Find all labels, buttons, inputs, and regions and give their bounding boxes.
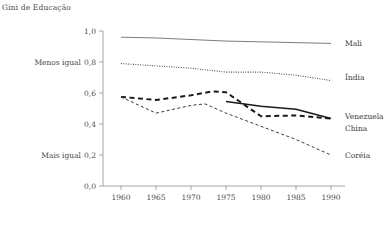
y-tick-label: 0,2: [84, 151, 96, 160]
y-tick-label: 1,0: [84, 27, 96, 36]
y-axis-annotation: Mais igual: [41, 151, 81, 160]
plot-area: 0,00,20,40,60,81,0Menos igualMais igual1…: [0, 0, 387, 225]
y-tick-label: 0,8: [84, 58, 96, 67]
y-axis-annotation: Menos igual: [34, 58, 81, 67]
education-gini-chart: Gini de Educação 0,00,20,40,60,81,0Menos…: [0, 0, 387, 225]
x-tick-label: 1965: [146, 193, 165, 202]
x-tick-label: 1960: [111, 193, 130, 202]
data-series: [121, 37, 331, 155]
y-tick-label: 0,4: [84, 120, 96, 129]
x-tick-label: 1990: [321, 193, 340, 202]
series-label-mali: Mali: [345, 39, 363, 48]
series-line-coreia: [121, 97, 331, 155]
series-labels: MaliÍndiaVenezuelaChinaCoréia: [344, 39, 384, 160]
y-tick-label: 0,0: [84, 182, 96, 191]
series-label-china: China: [345, 124, 368, 133]
series-label-coreia: Coréia: [345, 151, 371, 160]
series-line-mali: [121, 37, 331, 43]
x-tick-label: 1985: [286, 193, 305, 202]
series-label-venezuela: Venezuela: [344, 112, 384, 121]
axes: [99, 31, 345, 190]
series-line-china: [121, 91, 331, 118]
series-line-india: [121, 64, 331, 81]
tick-labels: 0,00,20,40,60,81,0Menos igualMais igual1…: [34, 27, 340, 202]
y-tick-label: 0,6: [84, 89, 96, 98]
x-tick-label: 1970: [181, 193, 200, 202]
x-tick-label: 1975: [216, 193, 235, 202]
series-label-india: Índia: [345, 73, 365, 82]
x-tick-label: 1980: [251, 193, 270, 202]
